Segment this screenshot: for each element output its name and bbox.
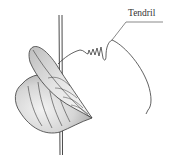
tendril-illustration [0, 0, 170, 163]
leaf [15, 46, 92, 133]
tendril-label: Tendril [128, 9, 155, 19]
label-leader-line [112, 22, 163, 40]
